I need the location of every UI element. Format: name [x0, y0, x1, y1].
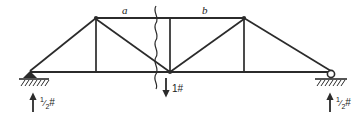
truss-diagram: a b 1# 1⁄2# 1⁄2#	[0, 0, 362, 117]
panel-label-b: b	[202, 5, 208, 16]
joint-left-apex	[94, 16, 98, 20]
right-reaction-numerator: 1	[336, 96, 340, 103]
right-reaction-unit: #	[345, 97, 351, 108]
joint-right-apex	[242, 16, 246, 20]
left-reaction-numerator: 1	[40, 96, 44, 103]
left-support-hatching	[21, 80, 49, 86]
center-load-label: 1#	[172, 84, 183, 94]
right-rafter-member	[244, 18, 331, 71]
left-reaction-unit: #	[49, 97, 55, 108]
left-rafter-member	[30, 18, 96, 71]
right-reaction-label: 1⁄2#	[336, 96, 351, 110]
panel-label-a: a	[122, 5, 128, 16]
right-support-hatching	[317, 80, 345, 86]
left-support-pin	[19, 71, 49, 86]
right-panel-diagonal-member	[170, 19, 244, 72]
joint-center-bottom	[168, 70, 172, 74]
left-reaction-label: 1⁄2#	[40, 96, 55, 110]
left-panel-diagonal-member	[96, 19, 170, 72]
right-reaction-arrow	[326, 93, 333, 113]
left-reaction-arrow	[29, 93, 36, 113]
center-load-arrow	[162, 78, 169, 98]
